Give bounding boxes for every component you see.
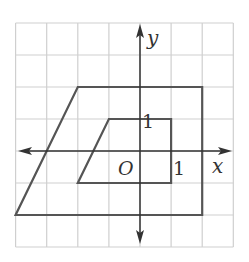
x-axis-label: x bbox=[212, 154, 223, 178]
axes bbox=[18, 24, 232, 244]
coordinate-grid: y x O 1 1 bbox=[0, 0, 249, 262]
x-tick-label: 1 bbox=[173, 157, 185, 179]
origin-label: O bbox=[118, 157, 134, 179]
y-tick-label: 1 bbox=[142, 110, 154, 132]
grid-lines bbox=[16, 23, 234, 247]
y-axis-label: y bbox=[146, 26, 159, 50]
